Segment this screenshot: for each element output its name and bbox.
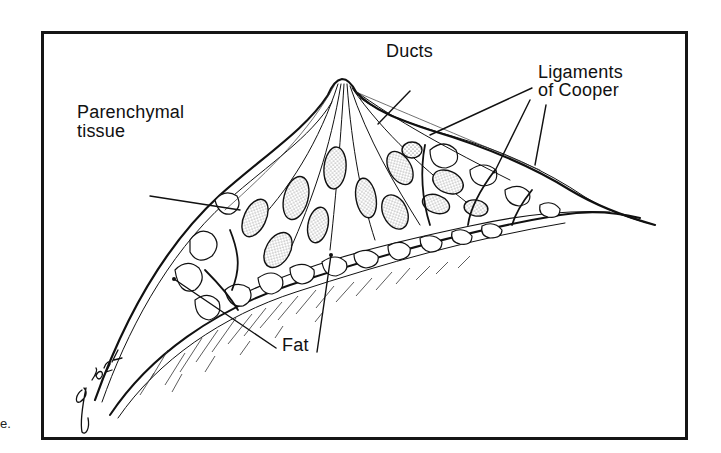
fat-leader-dot: [172, 277, 176, 281]
ligament-leader-2: [494, 100, 530, 173]
fat-lobules: [175, 144, 560, 320]
fat-leader-dot: [329, 253, 333, 257]
ligament-leader-3: [535, 105, 546, 165]
label-fat: Fat: [282, 336, 309, 355]
label-ligaments-line2: of Cooper: [538, 81, 619, 100]
label-ducts: Ducts: [386, 42, 433, 61]
label-parenchymal-line2: tissue: [77, 122, 125, 141]
label-parenchymal-line1: Parenchymal: [77, 103, 184, 122]
ducts-leader: [378, 91, 410, 124]
